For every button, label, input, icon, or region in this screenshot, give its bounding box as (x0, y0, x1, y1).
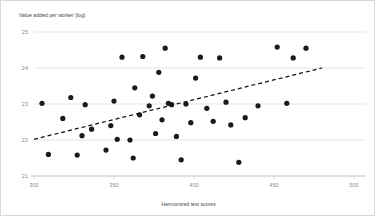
data-point (303, 46, 308, 51)
data-point (83, 102, 88, 107)
trend-line (34, 68, 322, 139)
data-point (291, 55, 296, 60)
data-point (119, 55, 124, 60)
x-axis-tick-labels: 300350400450500 (29, 182, 358, 188)
data-point (147, 103, 152, 108)
data-point (132, 85, 137, 90)
y-tick-label: 24 (22, 65, 28, 71)
y-axis-tick-labels: 2122232425 (22, 29, 28, 179)
y-tick-label: 22 (22, 137, 28, 143)
y-tick-label: 23 (22, 101, 28, 107)
y-tick-label: 21 (22, 173, 28, 179)
data-point (39, 101, 44, 106)
data-point (46, 152, 51, 157)
data-point (153, 131, 158, 136)
data-point (193, 75, 198, 80)
data-point (103, 147, 108, 152)
y-tick-label: 25 (22, 29, 28, 35)
data-point (60, 116, 65, 121)
data-point (284, 101, 289, 106)
y-axis-title: Value added per worker (log) (19, 12, 86, 18)
data-point (188, 120, 193, 125)
data-point (255, 103, 260, 108)
data-point (156, 70, 161, 75)
data-point (228, 122, 233, 127)
data-point (204, 106, 209, 111)
data-point (127, 137, 132, 142)
data-point (89, 127, 94, 132)
x-tick-label: 450 (269, 182, 278, 188)
data-point (68, 95, 73, 100)
data-point (111, 99, 116, 104)
data-point (75, 153, 80, 158)
data-point (115, 137, 120, 142)
data-point (275, 45, 280, 50)
data-point (108, 123, 113, 128)
data-point (198, 55, 203, 60)
scatter-plot: 2122232425 300350400450500 Value added p… (1, 1, 375, 216)
data-point (174, 134, 179, 139)
data-point (179, 157, 184, 162)
data-point (150, 93, 155, 98)
x-tick-label: 400 (189, 182, 198, 188)
x-tick-label: 500 (349, 182, 358, 188)
data-point (159, 117, 164, 122)
data-point (217, 55, 222, 60)
data-point (211, 119, 216, 124)
data-point (140, 54, 145, 59)
data-point (236, 160, 241, 165)
data-point (163, 46, 168, 51)
data-point (79, 133, 84, 138)
x-tick-label: 300 (29, 182, 38, 188)
data-points (39, 45, 308, 165)
x-tick-label: 350 (109, 182, 118, 188)
data-point (223, 100, 228, 105)
data-point (243, 115, 248, 120)
x-axis-line (30, 176, 366, 179)
x-axis-title: Harmonized test scores (161, 201, 216, 207)
chart-figure: 2122232425 300350400450500 Value added p… (0, 0, 375, 216)
data-point (131, 155, 136, 160)
